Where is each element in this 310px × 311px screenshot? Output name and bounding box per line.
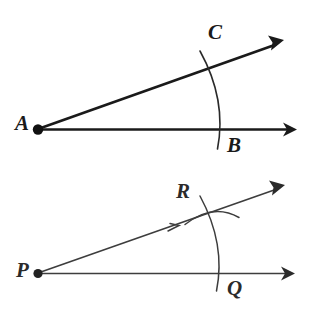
ray-AC <box>38 45 276 130</box>
point-label-P: P <box>16 260 29 281</box>
vertex-point-A <box>33 124 43 134</box>
top-angle-group <box>33 36 297 150</box>
arrowhead-ray-PR <box>269 181 285 196</box>
bottom-angle-group <box>33 181 295 292</box>
vertex-point-P <box>33 269 42 278</box>
point-label-R: R <box>176 181 190 202</box>
arrowhead-ray-AC <box>268 36 284 51</box>
point-label-Q: Q <box>227 278 242 299</box>
construction-figure-canvas: A B C P Q R <box>0 0 310 311</box>
point-label-B: B <box>227 135 241 156</box>
geometry-drawing <box>0 0 310 311</box>
ray-PR <box>38 189 277 273</box>
point-label-C: C <box>208 22 222 43</box>
point-label-A: A <box>15 113 29 134</box>
